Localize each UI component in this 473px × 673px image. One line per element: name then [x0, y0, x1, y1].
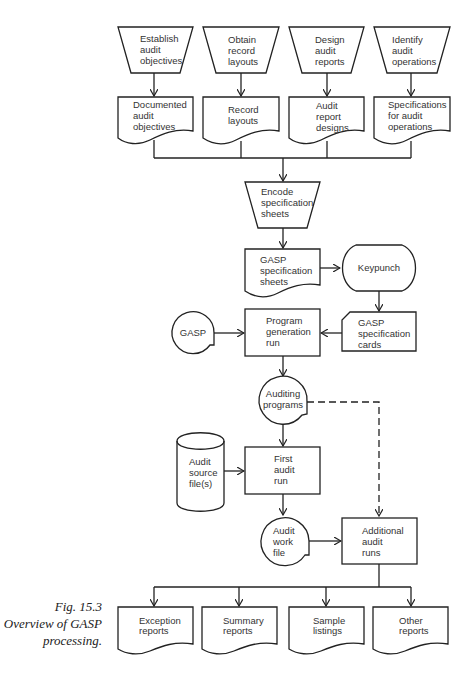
- document-specifications: Specificationsfor auditoperations: [374, 97, 450, 144]
- document-audit-objectives: Documentedauditobjectives: [118, 97, 193, 144]
- collector-connector: [154, 140, 411, 181]
- manual-op-obtain-layouts: Obtainrecordlayouts: [203, 27, 279, 73]
- caption-title-line2: processing.: [0, 632, 102, 649]
- process-program-generation: Programgenerationrun: [245, 309, 320, 356]
- svg-text:GASP: GASP: [180, 327, 206, 338]
- manual-op-design-reports: Designauditreports: [289, 27, 364, 73]
- svg-text:Recordlayouts: Recordlayouts: [228, 104, 259, 126]
- offline-keypunch: Keypunch: [343, 245, 416, 291]
- svg-text:Samplelistings: Samplelistings: [313, 615, 345, 636]
- disk-audit-source-files: Auditsourcefile(s): [177, 433, 224, 512]
- document-audit-report-designs: Auditreportdesigns: [289, 97, 364, 144]
- caption-figure-number: Fig. 15.3: [0, 598, 102, 615]
- document-gasp-spec-sheets: GASPspecificationsheets: [245, 249, 320, 297]
- tape-auditing-programs: Auditingprograms: [259, 376, 307, 424]
- caption-title-line1: Overview of GASP: [0, 615, 102, 632]
- svg-text:Keypunch: Keypunch: [358, 262, 400, 273]
- manual-op-encode-sheets: Encodespecificationsheets: [245, 182, 320, 228]
- document-exception-reports: Exceptionreports: [118, 607, 193, 654]
- document-sample-listings: Samplelistings: [289, 607, 364, 654]
- gasp-flowchart: Establishauditobjectives Obtainrecordlay…: [0, 0, 473, 673]
- process-first-audit-run: Firstauditrun: [245, 447, 320, 494]
- document-record-layouts: Recordlayouts: [203, 97, 279, 144]
- document-summary-reports: Summaryreports: [202, 607, 277, 654]
- svg-text:Obtainrecordlayouts: Obtainrecordlayouts: [228, 34, 258, 67]
- process-additional-audit-runs: Additionalauditruns: [342, 518, 417, 564]
- manual-op-establish-objectives: Establishauditobjectives: [118, 27, 193, 73]
- svg-text:Auditingprograms: Auditingprograms: [263, 388, 303, 410]
- document-other-reports: Otherreports: [373, 607, 448, 654]
- tape-gasp: GASP: [172, 312, 214, 354]
- figure-caption: Fig. 15.3 Overview of GASP processing.: [0, 598, 102, 649]
- tape-audit-work-file: Auditworkfile: [261, 518, 309, 566]
- distribution-connector: [154, 564, 411, 606]
- manual-op-identify-operations: Identifyauditoperations: [374, 27, 450, 73]
- punched-card-gasp-spec: GASPspecificationcards: [342, 312, 416, 351]
